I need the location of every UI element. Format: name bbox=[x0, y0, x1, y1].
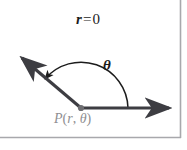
point-theta-arg-text: θ bbox=[80, 111, 87, 126]
point-p-label: P(r, θ) bbox=[54, 112, 91, 126]
point-name-text: P bbox=[54, 111, 63, 126]
equals-sign-text: = bbox=[82, 11, 92, 27]
arg-comma-text: , bbox=[73, 111, 77, 126]
r-equals-zero-label: r=0 bbox=[0, 12, 176, 27]
angle-arc bbox=[45, 62, 128, 108]
terminal-ray bbox=[22, 58, 81, 108]
theta-angle-label: θ bbox=[103, 58, 111, 73]
zero-value-text: 0 bbox=[92, 11, 100, 27]
polar-coordinate-figure: r=0 θ P(r, θ) bbox=[0, 0, 187, 150]
close-paren-text: ) bbox=[87, 111, 92, 126]
